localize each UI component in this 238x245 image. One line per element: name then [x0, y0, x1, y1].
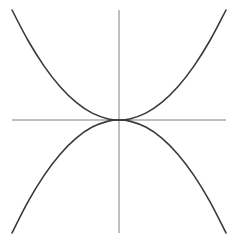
figure-canvas: [0, 0, 238, 245]
parabola-figure-svg: [0, 0, 238, 245]
